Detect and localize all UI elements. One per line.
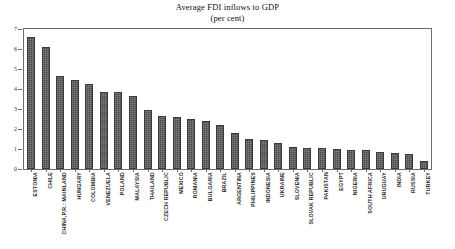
- x-axis-label: ROMANIA: [193, 172, 198, 198]
- y-tick-label-1: 1: [0, 146, 17, 152]
- bar-pakistan: [318, 148, 326, 169]
- x-axis-label: NIGERIA: [353, 172, 358, 195]
- bar-slot: [344, 29, 359, 169]
- bar-slot: [257, 29, 272, 169]
- x-axis-label: ESTONIA: [33, 172, 38, 197]
- bar-slot: [97, 29, 112, 169]
- x-axis-labels: ESTONIACHILECHINA,P.R.: MAINLANDHUNGARYC…: [24, 172, 431, 247]
- x-axis-label: HUNGARY: [77, 172, 82, 200]
- bar-turkey: [420, 161, 428, 169]
- y-tick-mark-3: [18, 109, 22, 110]
- bar-egypt: [333, 149, 341, 169]
- bar-south-africa: [362, 150, 370, 169]
- y-tick-label-0: 0: [0, 166, 17, 172]
- x-axis-label: VENEZUELA: [106, 172, 111, 205]
- x-axis-label: SOUTH AFRICA: [368, 172, 373, 214]
- y-tick-mark-2: [18, 129, 22, 130]
- bar-slot: [402, 29, 417, 169]
- y-tick-label-6: 6: [0, 46, 17, 52]
- x-axis-label: PHILIPPINES: [251, 172, 256, 207]
- bar-slot: [126, 29, 141, 169]
- bar-slot: [53, 29, 68, 169]
- bar-ukraine: [274, 143, 282, 169]
- bar-slovenia: [289, 147, 297, 169]
- chart-subtitle: (per cent): [0, 13, 455, 24]
- bar-slot: [213, 29, 228, 169]
- x-axis-label: SLOVENIA: [295, 172, 300, 200]
- bar-slot: [198, 29, 213, 169]
- bar-slot: [140, 29, 155, 169]
- bar-slot: [155, 29, 170, 169]
- bar-slot: [68, 29, 83, 169]
- bar-hungary: [71, 80, 79, 169]
- bar-thailand: [144, 110, 152, 169]
- bar-chile: [42, 47, 50, 169]
- x-axis-label: BULGARIA: [208, 172, 213, 201]
- y-tick-label-3: 3: [0, 106, 17, 112]
- chart-title: Average FDI inflows to GDP: [0, 2, 455, 13]
- chart-title-block: Average FDI inflows to GDP (per cent): [0, 2, 455, 24]
- x-axis-label: CHINA,P.R.: MAINLAND: [62, 172, 67, 235]
- bar-brazil: [216, 125, 224, 169]
- bars-container: [24, 29, 431, 169]
- bar-slot: [416, 29, 431, 169]
- bar-slot: [329, 29, 344, 169]
- bar-bulgaria: [202, 121, 210, 169]
- bar-slot: [358, 29, 373, 169]
- y-tick-mark-6: [18, 49, 22, 50]
- bar-romania: [187, 119, 195, 169]
- bar-czech-republic: [158, 116, 166, 169]
- bar-venezuela: [100, 92, 108, 169]
- bar-slot: [228, 29, 243, 169]
- bar-philippines: [245, 139, 253, 169]
- bar-slot: [242, 29, 257, 169]
- y-tick-label-7: 7: [0, 26, 17, 32]
- bar-slot: [387, 29, 402, 169]
- x-axis-label: RUSSIA: [411, 172, 416, 193]
- y-tick-mark-7: [18, 29, 22, 30]
- x-axis-label: POLAND: [120, 172, 125, 195]
- x-axis-label: EGYPT: [339, 172, 344, 191]
- bar-slot: [111, 29, 126, 169]
- y-tick-mark-1: [18, 149, 22, 150]
- bar-china-p-r-mainland: [56, 76, 64, 169]
- bar-russia: [405, 154, 413, 169]
- x-axis-label: TURKEY: [426, 172, 431, 195]
- bar-slot: [184, 29, 199, 169]
- bar-slot: [300, 29, 315, 169]
- x-axis-label: THAILAND: [150, 172, 155, 200]
- x-axis-label: MALAYSIA: [135, 172, 140, 200]
- bar-uruguay: [376, 152, 384, 169]
- x-axis-label: MEXICO: [179, 172, 184, 194]
- bar-slot: [286, 29, 301, 169]
- x-axis-label: UKRAINE: [280, 172, 285, 197]
- y-tick-mark-4: [18, 89, 22, 90]
- bar-malaysia: [129, 96, 137, 169]
- y-tick-label-4: 4: [0, 86, 17, 92]
- y-tick-mark-0: [18, 169, 22, 170]
- y-tick-label-2: 2: [0, 126, 17, 132]
- x-axis-label: PAKISTAN: [324, 172, 329, 200]
- x-axis-label: URUGUAY: [382, 172, 387, 199]
- x-axis-label: COLOMBIA: [91, 172, 96, 202]
- x-axis-label: INDONESIA: [266, 172, 271, 203]
- bar-slot: [373, 29, 388, 169]
- x-axis-label: CHILE: [48, 172, 53, 189]
- bar-india: [391, 153, 399, 169]
- bar-estonia: [27, 37, 35, 169]
- y-tick-mark-5: [18, 69, 22, 70]
- x-axis-label: SLOVAK REPUBLIC: [309, 172, 314, 225]
- bar-slot: [169, 29, 184, 169]
- bar-mexico: [173, 117, 181, 169]
- bar-poland: [114, 92, 122, 169]
- bar-slot: [24, 29, 39, 169]
- bar-slovak-republic: [303, 148, 311, 169]
- x-axis-label: BRAZIL: [222, 172, 227, 192]
- bar-slot: [82, 29, 97, 169]
- bar-indonesia: [260, 140, 268, 169]
- fdi-bar-chart: Average FDI inflows to GDP (per cent) 01…: [0, 0, 455, 249]
- bar-slot: [315, 29, 330, 169]
- x-axis-label: CZECH REPUBLIC: [164, 172, 169, 221]
- bar-nigeria: [347, 150, 355, 169]
- x-axis-label: INDIA: [397, 172, 402, 187]
